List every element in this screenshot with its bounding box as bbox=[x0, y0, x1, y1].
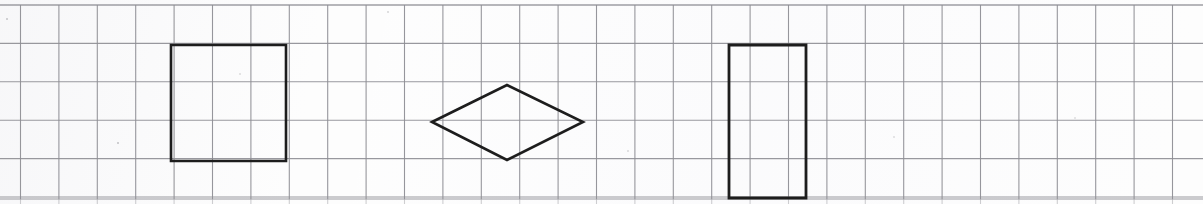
worksheet-canvas: Geometry worksheet grid with drawn shape… bbox=[0, 0, 1203, 204]
rectangle-shape bbox=[729, 45, 806, 198]
drawn-figures-group bbox=[171, 45, 806, 198]
shapes-layer bbox=[0, 0, 1203, 204]
square-shape bbox=[171, 45, 286, 161]
rhombus-shape bbox=[432, 85, 583, 160]
